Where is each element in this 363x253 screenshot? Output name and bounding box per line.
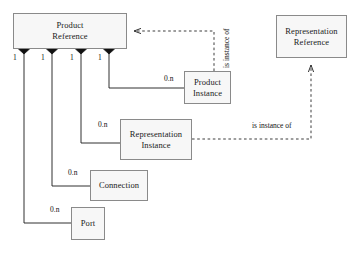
class-box-connection[interactable]: Connection bbox=[90, 170, 148, 201]
dependency-label-representation-instance: is instance of bbox=[252, 122, 292, 130]
multiplicity-label-zero-n-port: 0.n bbox=[50, 206, 59, 214]
dependency-product-instance-to-product-reference bbox=[134, 31, 214, 71]
multiplicity-label-zero-n-representation-instance: 0.n bbox=[98, 121, 107, 129]
multiplicity-label-one-connection: 1 bbox=[41, 54, 45, 62]
class-box-port[interactable]: Port bbox=[71, 207, 105, 240]
multiplicity-label-one-port: 1 bbox=[13, 54, 17, 62]
class-label-port: Port bbox=[72, 218, 104, 229]
class-box-product-reference[interactable]: Product Reference bbox=[13, 13, 127, 49]
class-label-product-instance: Product Instance bbox=[185, 77, 230, 99]
multiplicity-label-zero-n-product-instance: 0.n bbox=[164, 75, 173, 83]
class-label-representation-reference: Representation Reference bbox=[277, 26, 346, 48]
class-label-product-reference: Product Reference bbox=[14, 20, 126, 42]
association-product-reference-connection bbox=[47, 44, 91, 186]
dependency-label-product-instance: is instance of bbox=[223, 28, 231, 68]
class-box-representation-instance[interactable]: Representation Instance bbox=[120, 119, 192, 160]
class-box-representation-reference[interactable]: Representation Reference bbox=[276, 15, 347, 58]
multiplicity-label-one-representation-instance: 1 bbox=[70, 54, 74, 62]
class-box-product-instance[interactable]: Product Instance bbox=[184, 71, 231, 104]
uml-diagram-canvas: Product Reference Representation Referen… bbox=[0, 0, 363, 253]
association-product-reference-port bbox=[19, 44, 72, 223]
multiplicity-label-zero-n-connection: 0.n bbox=[68, 169, 77, 177]
multiplicity-label-one-product-instance: 1 bbox=[98, 54, 102, 62]
class-label-connection: Connection bbox=[91, 180, 147, 191]
class-label-representation-instance: Representation Instance bbox=[121, 129, 191, 151]
